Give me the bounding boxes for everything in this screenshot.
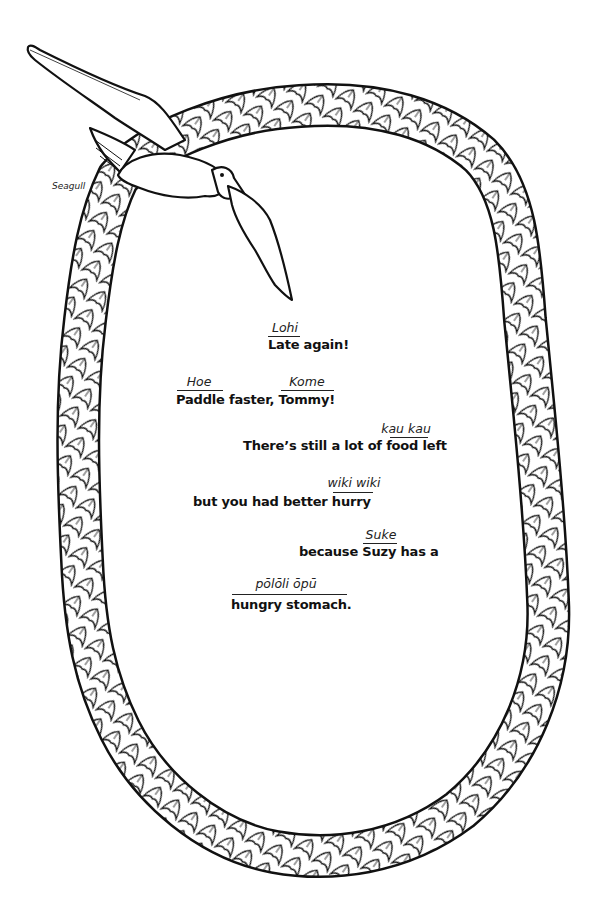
poem-line-6: hungry stomach. (231, 597, 352, 612)
gloss-lohi: Lohi (268, 320, 302, 335)
poem-line-3: There’s still a lot of food left (243, 438, 447, 453)
gloss-wiki-wiki: wiki wiki (320, 475, 388, 490)
gloss-kau-kau: kau kau (376, 421, 436, 436)
gloss-underline (232, 594, 347, 595)
gloss-underline (177, 390, 223, 391)
poem-line-1: Late again! (268, 337, 349, 352)
gloss-hoe: Hoe (176, 374, 222, 389)
seagull-label: Seagull (52, 181, 85, 191)
gloss-suke: Suke (362, 527, 400, 542)
gloss-pololi-opu: pōlōli ōpū (236, 576, 336, 591)
poem-line-4: but you had better hurry (193, 494, 371, 509)
gloss-kome: Kome (280, 374, 334, 389)
gloss-underline (281, 390, 334, 391)
lei-garland (78, 105, 548, 856)
gloss-underline (333, 492, 373, 493)
poem-line-5: because Suzy has a (299, 544, 439, 559)
seagull-drawing (28, 46, 292, 300)
poem-line-2: Paddle faster, Tommy! (176, 392, 335, 407)
